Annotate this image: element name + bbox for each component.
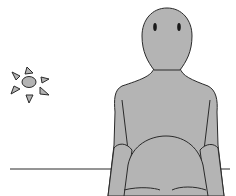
left-eye-icon: [153, 23, 157, 31]
person-figure: [108, 8, 224, 196]
sun-icon: [11, 67, 49, 103]
illustration-scene: [0, 0, 236, 196]
right-eye-icon: [177, 23, 181, 31]
head: [142, 8, 192, 70]
